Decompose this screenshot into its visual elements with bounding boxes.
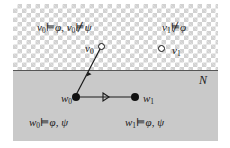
kripke-model-figure: v0 v1 w0 w1 v0⊨φ, v0⊭ψ v1⊭φ w0⊨φ, ψ w1⊨φ…	[13, 4, 218, 141]
node-w1	[131, 93, 139, 101]
node-v0	[98, 43, 105, 50]
annotation-bottom-left: w0⊨φ, ψ	[29, 117, 68, 129]
annotation-top-left: v0⊨φ, v0⊭ψ	[37, 22, 92, 34]
node-w0	[72, 93, 80, 101]
node-label-v0: v0	[85, 43, 94, 55]
node-label-w0: w0	[61, 93, 72, 105]
node-v1	[158, 45, 165, 52]
node-label-w1: w1	[143, 93, 154, 105]
divider-label-n: N	[199, 74, 207, 86]
node-label-v1: v1	[172, 45, 181, 57]
annotation-top-right: v1⊭φ	[162, 22, 186, 34]
annotation-bottom-right: w1⊨φ, ψ	[125, 117, 164, 129]
